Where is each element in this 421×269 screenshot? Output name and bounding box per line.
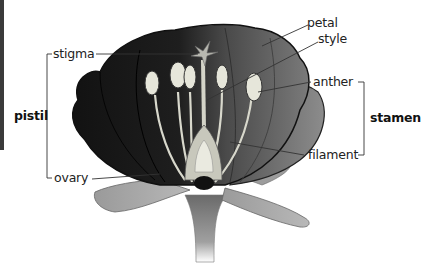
label-style: style xyxy=(318,33,347,46)
label-pistil: pistil xyxy=(14,110,48,123)
stem xyxy=(185,195,226,262)
label-stamen: stamen xyxy=(370,112,421,125)
label-petal: petal xyxy=(307,17,338,30)
label-ovary: ovary xyxy=(54,172,88,185)
label-stigma: stigma xyxy=(53,48,94,61)
label-anther: anther xyxy=(313,76,353,89)
label-filament: filament xyxy=(308,149,358,162)
flower-illustration xyxy=(0,0,421,269)
